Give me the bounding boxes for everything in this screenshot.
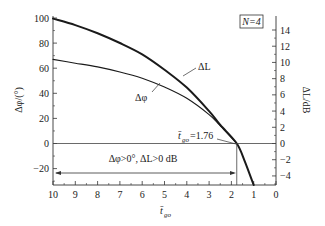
chart: 109876543210100806040200−2014121086420−2… <box>0 0 325 226</box>
x-tick-label: 3 <box>207 189 212 200</box>
svg-text:ΔL: ΔL <box>198 61 211 72</box>
y-axis-left-label: Δφ/(°) <box>13 87 25 113</box>
y-left-tick-label: 0 <box>44 138 49 149</box>
x-tick-label: 9 <box>73 189 78 200</box>
x-tick-label: 5 <box>162 189 167 200</box>
tgo-label-value: =1.76 <box>190 130 213 141</box>
y-left-tick-label: 40 <box>39 88 49 99</box>
x-tick-label: 4 <box>184 189 189 200</box>
x-tick-label: 7 <box>117 189 122 200</box>
y-right-tick-label: −2 <box>280 154 291 165</box>
x-tick-label: 0 <box>274 189 279 200</box>
y-right-tick-label: 2 <box>280 122 285 133</box>
x-tick-label: 10 <box>48 189 58 200</box>
region-arrow: Δφ>0°, ΔL>0 dB <box>55 153 236 175</box>
y-right-tick-label: 12 <box>280 41 290 52</box>
y-right-tick-label: 6 <box>280 89 285 100</box>
series-label-dl: ΔL <box>183 61 211 76</box>
x-tick-label: 1 <box>251 189 256 200</box>
x-tick-label: 8 <box>95 189 100 200</box>
y-left-tick-label: 20 <box>39 113 49 124</box>
y-left-tick-label: −20 <box>33 163 49 174</box>
y-right-tick-label: 14 <box>280 25 290 36</box>
y-right-tick-label: 4 <box>280 106 285 117</box>
x-axis-label: t̄ go <box>160 205 172 219</box>
y-left-tick-label: 60 <box>39 63 49 74</box>
y-right-tick-label: 8 <box>280 73 285 84</box>
ticks: 109876543210100806040200−2014121086420−2… <box>33 13 290 201</box>
y-left-tick-label: 80 <box>39 38 49 49</box>
y-left-tick-label: 100 <box>34 13 49 24</box>
y-right-tick-label: 0 <box>280 138 285 149</box>
reference-lines <box>53 144 276 186</box>
svg-text:Δφ: Δφ <box>135 92 147 103</box>
y-axis-right-label: ΔL/dB <box>301 87 312 114</box>
x-tick-label: 2 <box>229 189 234 200</box>
legend-text: N=4 <box>241 16 260 27</box>
region-label: Δφ>0°, ΔL>0 dB <box>109 153 178 164</box>
legend-box: N=4 <box>240 15 263 28</box>
y-right-tick-label: −4 <box>280 170 291 181</box>
y-right-tick-label: 10 <box>280 57 290 68</box>
tgo-label-sub: go <box>182 136 190 144</box>
series-label-dphi: Δφ <box>135 83 160 103</box>
x-tick-label: 6 <box>140 189 145 200</box>
x-axis-label-sub: go <box>164 211 172 219</box>
